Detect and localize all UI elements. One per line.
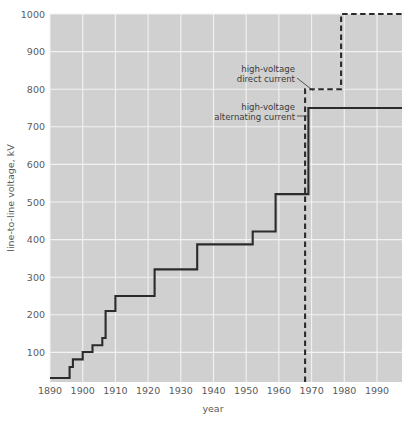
chart-figure: 1000 900 800 700 600 500 400 300 200 100… [0,0,419,424]
y-tick-800: 800 [27,84,45,95]
y-tick-600: 600 [27,159,45,170]
y-tick-1000: 1000 [21,9,45,20]
x-tick-1980: 1980 [332,385,356,396]
x-tick-1940: 1940 [201,385,225,396]
chart-svg: 1000 900 800 700 600 500 400 300 200 100… [0,0,419,424]
y-tick-100: 100 [27,347,45,358]
y-tick-700: 700 [27,121,45,132]
plot-area-background [50,14,402,382]
y-tick-900: 900 [27,46,45,57]
x-axis-tick-labels: 1890 1900 1910 1920 1930 1940 1950 1960 … [38,385,389,396]
annotation-hvac-line2: alternating current [214,112,295,122]
x-tick-1990: 1990 [365,385,389,396]
y-tick-300: 300 [27,272,45,283]
x-tick-1950: 1950 [234,385,258,396]
x-tick-1970: 1970 [300,385,324,396]
x-tick-1960: 1960 [267,385,291,396]
annotation-hvdc-line2: direct current [237,74,296,84]
y-tick-400: 400 [27,234,45,245]
annotation-hvac-line1: high-voltage [241,102,295,112]
y-axis-tick-labels: 1000 900 800 700 600 500 400 300 200 100 [21,9,45,358]
x-tick-1920: 1920 [136,385,160,396]
x-tick-1900: 1900 [71,385,95,396]
x-tick-1890: 1890 [38,385,62,396]
y-tick-200: 200 [27,309,45,320]
x-tick-1930: 1930 [169,385,193,396]
annotation-hvdc-line1: high-voltage [241,64,295,74]
y-tick-500: 500 [27,197,45,208]
x-tick-1910: 1910 [103,385,127,396]
x-axis-title: year [202,403,223,414]
y-axis-title: line-to-line voltage, kV [5,144,16,252]
